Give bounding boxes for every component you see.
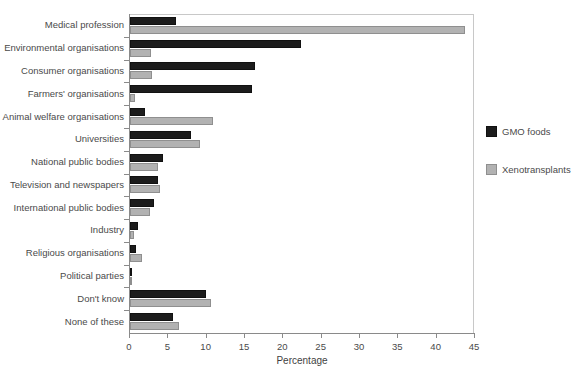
category-label: Consumer organisations [0,65,124,76]
bar-gap [130,93,252,94]
category-label: Don't know [0,293,124,304]
x-axis-tick [436,333,437,338]
bar-gmo-foods [130,313,173,321]
bar-group [130,40,301,57]
bar-gmo-foods [130,131,191,139]
x-axis-tick-label: 35 [382,341,412,352]
category-label: Industry [0,224,124,235]
bar-group [130,62,255,79]
x-axis-tick-label: 45 [459,341,489,352]
bar-group [130,199,154,216]
y-axis-tick [124,174,130,175]
x-axis-tick-label: 15 [229,341,259,352]
category-label: Universities [0,133,124,144]
category-row: International public bodies [0,196,575,219]
legend-label: GMO foods [502,126,551,137]
bar-gmo-foods [130,290,206,298]
category-row: Television and newspapers [0,174,575,197]
category-row: Consumer organisations [0,60,575,83]
y-axis-tick [124,310,130,311]
y-axis-tick [124,287,130,288]
category-row: None of these [0,310,575,333]
category-row: Environmental organisations [0,37,575,60]
category-row: Medical profession [0,14,575,37]
category-label: National public bodies [0,156,124,167]
category-label: Medical profession [0,19,124,30]
x-axis-tick [397,333,398,338]
bar-group [130,268,132,285]
category-label: Animal welfare organisations [0,111,124,122]
bar-xenotransplants [130,26,465,34]
category-label: None of these [0,316,124,327]
bar-gmo-foods [130,154,163,162]
bar-gmo-foods [130,268,132,276]
bar-group [130,17,465,34]
category-label: Religious organisations [0,247,124,258]
bar-chart: Medical professionEnvironmental organisa… [0,0,575,376]
x-axis-tick [282,333,283,338]
bar-xenotransplants [130,163,158,171]
bar-group [130,154,163,171]
bar-group [130,85,252,102]
bar-xenotransplants [130,140,200,148]
category-row: Religious organisations [0,242,575,265]
category-label: Television and newspapers [0,179,124,190]
bar-gmo-foods [130,199,154,207]
x-axis-tick [474,333,475,338]
bar-xenotransplants [130,277,132,285]
bar-group [130,290,211,307]
x-axis-tick [129,333,130,338]
bar-gmo-foods [130,62,255,70]
category-row: Industry [0,219,575,242]
y-axis-tick [124,37,130,38]
x-axis-tick-label: 10 [191,341,221,352]
category-row: Animal welfare organisations [0,105,575,128]
category-label: Farmers' organisations [0,88,124,99]
x-axis-tick-label: 5 [152,341,182,352]
y-axis-tick [124,60,130,61]
bar-gmo-foods [130,85,252,93]
x-axis-tick-label: 0 [114,341,144,352]
y-axis-tick [124,219,130,220]
bar-xenotransplants [130,299,211,307]
bar-group [130,176,160,193]
x-axis-tick-label: 25 [306,341,336,352]
bar-gmo-foods [130,17,176,25]
bar-xenotransplants [130,254,142,262]
y-axis-tick [124,151,130,152]
x-axis-tick [244,333,245,338]
x-axis-tick [206,333,207,338]
bar-group [130,131,200,148]
x-axis-tick-label: 30 [344,341,374,352]
bar-group [130,245,142,262]
y-axis-tick [124,265,130,266]
bar-group [130,222,138,239]
category-label: Environmental organisations [0,42,124,53]
bar-xenotransplants [130,231,134,239]
y-axis-tick [124,82,130,83]
bar-xenotransplants [130,49,151,57]
legend-label: Xenotransplants [502,164,571,175]
y-axis-tick [124,105,130,106]
bar-gmo-foods [130,176,158,184]
y-axis-tick [124,128,130,129]
bar-group [130,313,179,330]
category-label: International public bodies [0,202,124,213]
bar-xenotransplants [130,185,160,193]
bar-xenotransplants [130,208,150,216]
x-axis-tick [167,333,168,338]
x-axis-line [129,333,475,334]
bar-xenotransplants [130,322,179,330]
bar-gmo-foods [130,108,145,116]
bar-xenotransplants [130,117,213,125]
y-axis-tick [124,196,130,197]
bar-gap [130,48,301,49]
category-row: Farmers' organisations [0,82,575,105]
legend-swatch-icon [486,126,497,137]
category-row: Political parties [0,265,575,288]
bar-gmo-foods [130,222,138,230]
x-axis-tick-label: 20 [267,341,297,352]
bar-xenotransplants [130,94,135,102]
x-axis-tick [321,333,322,338]
legend-swatch-icon [486,164,497,175]
